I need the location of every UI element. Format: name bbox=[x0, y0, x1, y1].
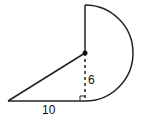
triangle-hypotenuse bbox=[8, 53, 85, 101]
height-label: 6 bbox=[88, 73, 95, 87]
center-point bbox=[83, 51, 88, 56]
geometry-figure: 6 10 bbox=[0, 0, 143, 121]
base-label: 10 bbox=[42, 103, 56, 117]
